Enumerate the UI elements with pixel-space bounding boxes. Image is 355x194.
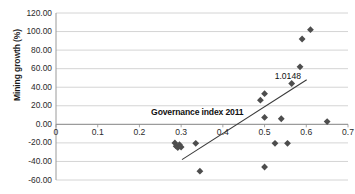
data-point-marker [278, 115, 285, 122]
data-point-marker [288, 80, 295, 87]
data-point-marker [299, 36, 306, 43]
data-point-marker [261, 164, 268, 171]
x-tick-label: 0.7 [342, 127, 354, 137]
scatter-chart: Mining growth (%) 120.00 100.00 80.00 60… [0, 0, 355, 194]
data-points [171, 26, 330, 174]
x-tick-label: 0.6 [300, 127, 312, 137]
trendline [182, 80, 307, 160]
data-point-marker [261, 114, 268, 121]
slope-annotation: 1.0148 [275, 71, 301, 81]
plot-area [0, 0, 355, 194]
x-tick-label: 0 [54, 127, 59, 137]
data-point-marker [261, 90, 268, 97]
data-point-marker [192, 140, 199, 147]
x-tick-label: 0.3 [175, 127, 187, 137]
x-tick-label: 0.1 [92, 127, 104, 137]
data-point-marker [284, 140, 291, 147]
x-axis-title: Governance index 2011 [151, 107, 243, 117]
data-point-marker [297, 63, 304, 70]
x-tick-label: 0.5 [259, 127, 271, 137]
data-point-marker [307, 26, 314, 33]
data-point-marker [257, 97, 264, 104]
data-point-marker [197, 168, 204, 175]
x-tick-label: 0.2 [133, 127, 145, 137]
x-tick-label: 0.4 [217, 127, 229, 137]
data-point-marker [272, 140, 279, 147]
